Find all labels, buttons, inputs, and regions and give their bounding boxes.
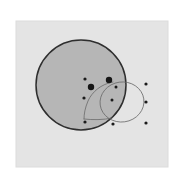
scatter-plot-figure [0,0,185,183]
data-point-p8 [111,122,114,125]
data-point-p11 [144,121,147,124]
data-point-p7 [83,120,86,123]
data-point-p3 [106,77,112,83]
figure-canvas [0,0,185,183]
data-point-p9 [144,82,147,85]
data-point-p5 [82,96,85,99]
data-point-p1 [83,77,86,80]
data-point-p4 [115,86,118,89]
data-point-p2 [88,84,94,90]
data-point-p10 [144,100,147,103]
data-point-p6 [111,99,114,102]
main-disk [36,40,126,130]
